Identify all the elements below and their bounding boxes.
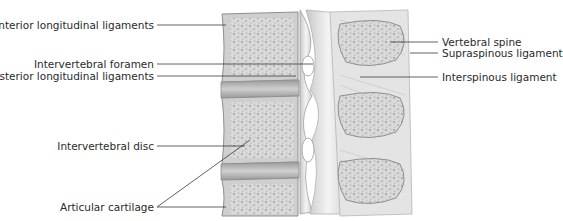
label-intervertebral-disc: Intervertebral disc [57,140,154,152]
label-interspinous-ligament: Interspinous ligament [442,71,557,83]
label-intervertebral-foramen: Intervertebral foramen [34,58,154,70]
spinous-processes [330,10,412,216]
vertebral-bodies [221,12,299,216]
label-posterior-longitudinal-ligaments: Posterior longitudinal ligaments [0,70,154,82]
label-articular-cartilage: Articular cartilage [60,201,154,213]
label-anterior-longitudinal-ligaments: Anterior longitudinal ligaments [0,19,154,31]
label-supraspinous-ligament: Supraspinous ligament [442,47,563,59]
